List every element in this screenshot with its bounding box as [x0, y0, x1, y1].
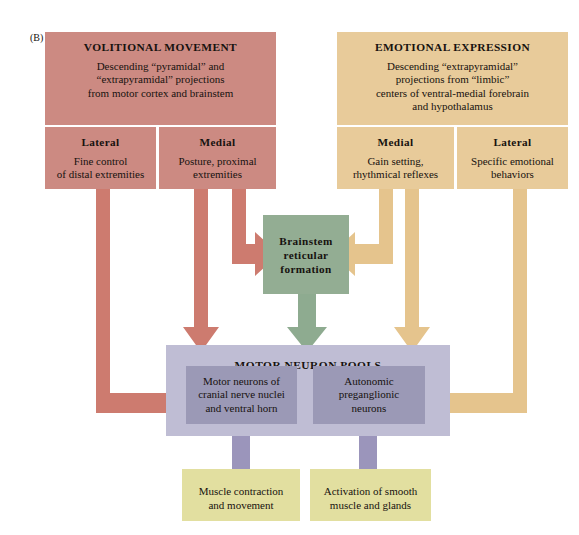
- desc-line: centers of ventral-medial forebrain: [337, 87, 568, 100]
- smooth-muscle-activation-box: Activation of smooth muscle and glands: [310, 469, 431, 521]
- text-line: formation: [279, 262, 332, 276]
- arrow-brainstem-to-pools: [287, 293, 327, 352]
- desc-line: and hypothalamus: [337, 100, 568, 113]
- emotional-lateral-box: Lateral Specific emotional behaviors: [457, 127, 568, 189]
- desc-line: projections from “limbic”: [337, 73, 568, 86]
- text-line: Autonomic: [339, 375, 399, 388]
- desc-line: Descending “pyramidal” and: [45, 60, 276, 73]
- volitional-medial-text: Posture, proximal extremities: [159, 155, 276, 182]
- text-line: extremities: [159, 168, 276, 181]
- volitional-lateral-text: Fine control of distal extremities: [45, 155, 156, 182]
- text-line: cranial nerve nuclei: [198, 388, 285, 401]
- text-line: Muscle contraction: [199, 485, 284, 498]
- emotional-medial-box: Medial Gain setting, rhythmical reflexes: [337, 127, 454, 189]
- volitional-movement-description: Descending “pyramidal” and “extrapyramid…: [45, 60, 276, 100]
- text-line: Gain setting,: [337, 155, 454, 168]
- text-line: and movement: [199, 499, 284, 512]
- autonomic-preganglionic-text: Autonomic preganglionic neurons: [339, 375, 399, 415]
- emotional-expression-header: EMOTIONAL EXPRESSION Descending “extrapy…: [337, 32, 568, 125]
- text-line: of distal extremities: [45, 168, 156, 181]
- arrow-volitional-medial-to-pools: [183, 188, 219, 352]
- arrow-emotional-medial-to-pools: [394, 188, 430, 352]
- desc-line: from motor cortex and brainstem: [45, 87, 276, 100]
- text-line: Brainstem: [279, 234, 332, 248]
- panel-label: (B): [30, 32, 43, 43]
- emotional-lateral-text: Specific emotional behaviors: [457, 155, 568, 182]
- text-line: Motor neurons of: [198, 375, 285, 388]
- desc-line: Descending “extrapyramidal”: [337, 60, 568, 73]
- brainstem-reticular-formation-label: Brainstem reticular formation: [279, 234, 332, 276]
- emotional-medial-text: Gain setting, rhythmical reflexes: [337, 155, 454, 182]
- brainstem-reticular-formation-box: Brainstem reticular formation: [263, 215, 349, 294]
- emotional-expression-title: EMOTIONAL EXPRESSION: [337, 41, 568, 53]
- desc-line: “extrapyramidal” projections: [45, 73, 276, 86]
- volitional-medial-box: Medial Posture, proximal extremities: [159, 127, 276, 189]
- emotional-medial-title: Medial: [337, 136, 454, 148]
- text-line: rhythmical reflexes: [337, 168, 454, 181]
- volitional-medial-title: Medial: [159, 136, 276, 148]
- text-line: Activation of smooth: [324, 485, 418, 498]
- text-line: and ventral horn: [198, 402, 285, 415]
- motor-neurons-cranial-box: Motor neurons of cranial nerve nuclei an…: [186, 366, 297, 424]
- text-line: Specific emotional: [457, 155, 568, 168]
- text-line: reticular: [279, 248, 332, 262]
- text-line: Fine control: [45, 155, 156, 168]
- muscle-contraction-box: Muscle contraction and movement: [182, 469, 300, 521]
- emotional-lateral-title: Lateral: [457, 136, 568, 148]
- text-line: neurons: [339, 402, 399, 415]
- text-line: preganglionic: [339, 388, 399, 401]
- volitional-lateral-box: Lateral Fine control of distal extremiti…: [45, 127, 156, 189]
- text-line: muscle and glands: [324, 499, 418, 512]
- volitional-movement-header: VOLITIONAL MOVEMENT Descending “pyramida…: [45, 32, 276, 125]
- figure-panel-b: (B) VOLITIONAL MOVEMENT Descending “pyra…: [0, 0, 579, 535]
- volitional-lateral-title: Lateral: [45, 136, 156, 148]
- text-line: behaviors: [457, 168, 568, 181]
- emotional-expression-description: Descending “extrapyramidal” projections …: [337, 60, 568, 114]
- text-line: Posture, proximal: [159, 155, 276, 168]
- muscle-contraction-text: Muscle contraction and movement: [199, 485, 284, 512]
- volitional-movement-title: VOLITIONAL MOVEMENT: [45, 41, 276, 53]
- motor-neurons-cranial-text: Motor neurons of cranial nerve nuclei an…: [198, 375, 285, 415]
- smooth-muscle-activation-text: Activation of smooth muscle and glands: [324, 485, 418, 512]
- autonomic-preganglionic-box: Autonomic preganglionic neurons: [313, 366, 425, 424]
